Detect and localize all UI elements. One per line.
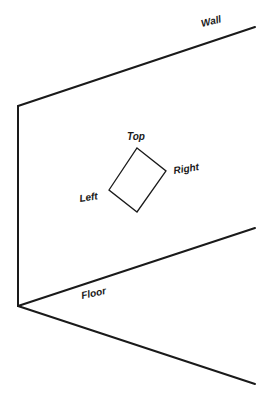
wall-floor-diagram: Wall Floor Top Right Left — [0, 0, 273, 404]
right-label: Right — [173, 161, 201, 176]
floor-front-edge — [18, 306, 255, 384]
top-label: Top — [127, 131, 145, 142]
wall-top-edge — [18, 27, 255, 106]
tilted-rectangle — [109, 148, 166, 212]
wall-label: Wall — [200, 13, 223, 29]
floor-label: Floor — [80, 285, 108, 301]
left-label: Left — [79, 190, 99, 204]
wall-floor-junction-edge — [18, 228, 255, 306]
